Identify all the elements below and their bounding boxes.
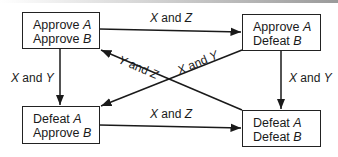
edge-tl-tr xyxy=(99,29,241,32)
edge-label-bl-br: X and Z xyxy=(150,107,192,121)
state-line-1: Approve A xyxy=(33,18,99,32)
state-approve-a-approve-b: Approve A Approve B xyxy=(22,12,100,49)
state-line-2: Approve B xyxy=(33,126,99,140)
state-defeat-a-approve-b: Defeat A Approve B xyxy=(22,106,100,144)
state-line-1: Approve A xyxy=(253,20,320,34)
edge-label-tl-bl: X and Y xyxy=(11,71,54,85)
state-line-2: Defeat B xyxy=(253,34,320,48)
state-approve-a-defeat-b: Approve A Defeat B xyxy=(242,14,321,51)
state-line-2: Approve B xyxy=(33,32,99,46)
state-defeat-a-defeat-b: Defeat A Defeat B xyxy=(242,110,321,147)
state-line-1: Defeat A xyxy=(253,116,320,130)
state-line-1: Defeat A xyxy=(33,112,99,126)
state-line-2: Defeat B xyxy=(253,130,320,144)
edge-bl-br xyxy=(99,125,241,128)
edge-label-tl-tr: X and Z xyxy=(150,11,192,25)
edge-label-tr-br: X and Y xyxy=(289,71,332,85)
